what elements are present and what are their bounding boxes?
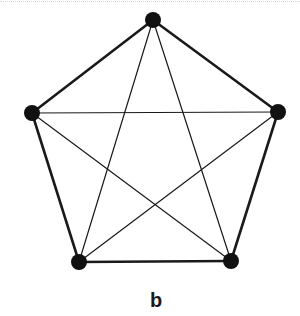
node-bottom-left — [71, 254, 87, 270]
outer-edge-bottom-left-left — [32, 113, 79, 262]
inner-edge-left-bottom-right — [32, 113, 231, 261]
inner-edge-top-bottom-right — [153, 20, 231, 261]
graph-nodes — [24, 12, 286, 270]
complete-graph-diagram — [0, 0, 300, 316]
node-top — [145, 12, 161, 28]
node-bottom-right — [223, 253, 239, 269]
outer-edge-right-bottom-right — [231, 112, 278, 261]
figure-label: b — [0, 290, 300, 310]
node-right — [270, 104, 286, 120]
outer-edge-bottom-right-bottom-left — [79, 261, 231, 262]
inner-edge-top-bottom-left — [79, 20, 153, 262]
node-left — [24, 105, 40, 121]
inner-edge-left-right — [32, 112, 278, 113]
outer-edge-left-top — [32, 20, 153, 113]
outer-edge-top-right — [153, 20, 278, 112]
inner-edge-right-bottom-left — [79, 112, 278, 262]
